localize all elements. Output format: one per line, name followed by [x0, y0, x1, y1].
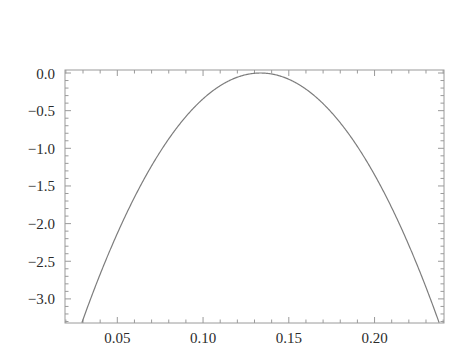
y-tick-label: −2.0: [28, 216, 55, 232]
y-tick-label: −2.5: [28, 254, 55, 270]
y-tick-label: −3.0: [28, 291, 55, 307]
x-tick-label: 0.20: [361, 330, 387, 346]
y-tick-label: −1.0: [28, 141, 55, 157]
y-tick-label: −0.5: [28, 103, 55, 119]
plot-area: 0.050.100.150.20 0.0−0.5−1.0−1.5−2.0−2.5…: [0, 0, 466, 348]
plot-background: [0, 0, 466, 348]
x-tick-label: 0.15: [276, 330, 302, 346]
figure-container: Standardized log−likelihood Interest fun…: [0, 0, 466, 348]
y-tick-label: −1.5: [28, 178, 55, 194]
x-tick-label: 0.05: [104, 330, 130, 346]
x-tick-label: 0.10: [190, 330, 216, 346]
y-tick-label: 0.0: [36, 66, 55, 82]
